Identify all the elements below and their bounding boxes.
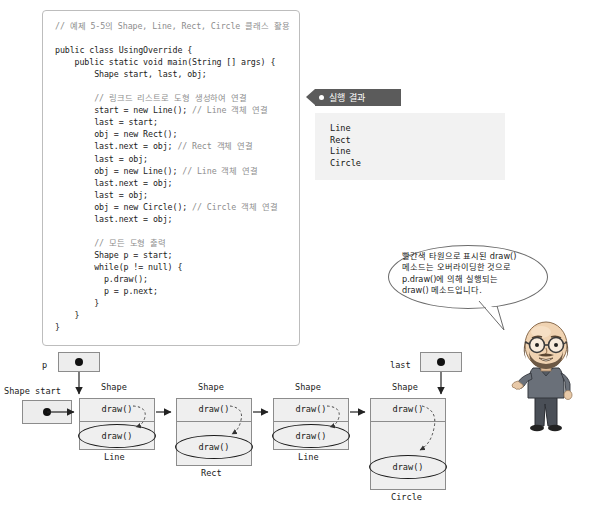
result-output-text: Line Rect Line Circle bbox=[330, 123, 504, 169]
code-listing: // 예제 5-5의 Shape, Line, Rect, Circle 클래스… bbox=[55, 20, 289, 333]
linked-list-diagram: p last Shape start Shape draw() draw() L… bbox=[0, 348, 608, 520]
result-tag-label: 실행 결과 bbox=[329, 91, 365, 104]
page-root: // 예제 5-5의 Shape, Line, Rect, Circle 클래스… bbox=[0, 0, 608, 520]
result-tag: 실행 결과 bbox=[315, 89, 401, 106]
speech-bubble-text: 빨간색 타원으로 표시된 draw() 메소드는 오버라이딩한 것으로 p.dr… bbox=[402, 251, 552, 296]
tag-arrow-icon bbox=[306, 89, 315, 105]
result-output-box: Line Rect Line Circle bbox=[315, 113, 505, 180]
tag-bullet-icon bbox=[319, 95, 324, 100]
code-panel: // 예제 5-5의 Shape, Line, Rect, Circle 클래스… bbox=[42, 10, 300, 346]
diagram-arrows bbox=[0, 348, 608, 520]
